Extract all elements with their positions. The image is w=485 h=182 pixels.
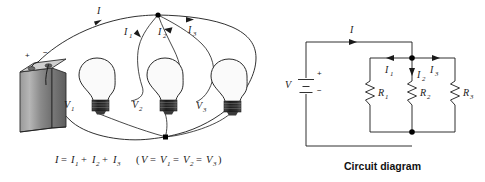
source-minus-label: − [317,86,322,95]
schematic-label-I1-sub: 1 [390,70,393,77]
source-label-V: V [285,79,293,90]
junction-dot-top [155,12,160,17]
schematic-label-I3: I [429,64,434,75]
schematic-arrow-I1 [386,55,394,61]
arrow-I1 [134,30,141,38]
eqn-I3-sub: 3 [116,160,121,168]
current-label-1-sub: 1 [129,32,132,39]
resistor-1-symbol [366,81,375,105]
eqn-I: I [54,154,59,165]
bulb-2-screw-base [160,100,177,111]
schematic-caption: Circuit diagram [344,160,421,172]
bulb-2-label-sub: 2 [139,105,143,112]
bulb-3-screw-base [224,101,241,112]
battery-side-face [52,68,66,128]
eqn-paren-open: ( [136,154,140,166]
bulb-1 [79,58,115,115]
battery-minus-label: − [43,48,48,57]
arrow-I3 [186,17,194,23]
pictorial-group: + − V 1 V 2 [20,5,256,168]
battery-front-face [20,68,52,132]
resistor-3-label: R [462,87,469,98]
current-label-2: I [157,26,162,37]
schematic-junction-top [409,55,415,61]
resistor-2-symbol [408,81,417,105]
resistor-2-label-sub: 2 [427,93,431,100]
schematic-arrow-I2 [409,68,415,76]
wire-return-1 [97,113,166,137]
resistor-3-symbol [451,81,460,105]
resistor-3-label-sub: 3 [469,93,474,100]
eqn-V1-sub: 1 [167,160,171,168]
schematic-label-I2: I [416,69,421,80]
current-label-3: I [187,24,192,35]
battery-terminal-positive [28,67,35,71]
bulb-2-base-tip [163,111,174,115]
eqn-plus-1: + [81,154,87,165]
schematic-label-I-main: I [349,24,354,35]
resistor-1-label: R [377,87,384,98]
current-label-3-sub: 3 [192,30,197,37]
parallel-circuit-figure: + − V 1 V 2 [0,0,485,182]
bulb-1-label-sub: 1 [71,105,74,112]
bulb-3-glass [211,59,247,102]
bulb-1-base-tip [95,111,106,115]
schematic-label-I3-sub: 3 [434,70,439,77]
schematic-arrow-I3 [432,55,440,61]
current-label-2-sub: 2 [163,32,167,39]
battery-plus-label: + [25,51,30,60]
eqn-I2-sub: 2 [96,160,100,168]
bulb-1-glass [79,58,115,101]
schematic-arrow-I-main [349,39,357,45]
resistor-1-label-sub: 1 [385,93,388,100]
bulb-1-screw-base [92,100,109,111]
wire-return-3 [166,112,233,137]
wire-return-2 [165,113,167,137]
source-plus-label: + [317,69,322,78]
eqn-eq-1: = [61,154,67,165]
bulb-2-glass [147,58,183,101]
current-label-1: I [123,26,128,37]
schematic-label-I2-sub: 2 [422,75,426,82]
bulb-2 [147,58,183,115]
schematic-junction-bottom [409,129,415,135]
junction-dot-bottom [163,135,168,140]
eqn-plus-2: + [102,154,108,165]
figure-canvas: + − V 1 V 2 [0,0,485,182]
resistor-2-label: R [419,87,426,98]
eqn-V: V [141,154,149,165]
bulb-3 [211,59,247,116]
current-label-main: I [96,5,101,16]
eqn-eq-4: = [196,154,202,165]
eqn-paren-close: ) [218,154,222,166]
eqn-V2-sub: 2 [190,160,194,168]
battery-3d [20,59,66,132]
eqn-I1-sub: 1 [75,160,79,168]
schematic-label-I1: I [384,64,389,75]
bulb-3-label-sub: 3 [202,106,207,113]
eqn-eq-3: = [173,154,179,165]
schematic-group: V + − R 1 R 2 R 3 [285,24,474,172]
eqn-V3-sub: 3 [212,160,217,168]
equation-group: I = I 1 + I 2 + I 3 ( V = V 1 = V 2 = V [54,154,222,168]
eqn-eq-2: = [150,154,156,165]
